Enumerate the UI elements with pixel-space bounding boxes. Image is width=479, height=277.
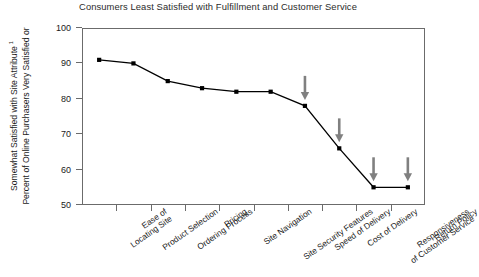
x-axis-tick-mark bbox=[116, 205, 117, 211]
y-axis-tick: 70 bbox=[0, 129, 82, 139]
x-axis-tick-mark bbox=[391, 205, 392, 211]
y-axis-tick-label: 70 bbox=[61, 129, 71, 139]
x-axis-category-label: Site Navigation bbox=[263, 207, 314, 247]
x-axis-tick-mark bbox=[219, 205, 220, 211]
y-axis-label-secondary: Somewhat Satisfied with Site Attribute1 bbox=[0, 16, 28, 216]
y-axis-tick: 50 bbox=[0, 200, 82, 210]
y-axis-tick: 90 bbox=[0, 58, 82, 68]
y-axis-tick-mark bbox=[76, 204, 82, 205]
y-axis-tick-label: 50 bbox=[61, 200, 71, 210]
x-axis-tick-mark bbox=[356, 205, 357, 211]
y-axis-tick-label: 100 bbox=[56, 23, 71, 33]
y-axis-tick-mark bbox=[76, 98, 82, 99]
chart-title: Consumers Least Satisfied with Fulfillme… bbox=[0, 1, 436, 12]
y-axis-label-footnote-marker: 1 bbox=[8, 41, 14, 44]
y-axis-tick-mark bbox=[76, 133, 82, 134]
y-axis-tick: 80 bbox=[0, 94, 82, 104]
x-axis-tick-mark bbox=[322, 205, 323, 211]
y-axis-tick-mark bbox=[76, 169, 82, 170]
x-axis-tick-mark bbox=[151, 205, 152, 211]
y-axis-tick-label: 90 bbox=[61, 58, 71, 68]
x-axis-tick-mark bbox=[254, 205, 255, 211]
plot-area bbox=[82, 28, 425, 205]
y-axis-tick: 60 bbox=[0, 165, 82, 175]
y-axis-tick: 100 bbox=[0, 23, 82, 33]
x-axis-tick-mark bbox=[288, 205, 289, 211]
x-axis-tick-mark bbox=[185, 205, 186, 211]
y-axis-tick-label: 60 bbox=[61, 165, 71, 175]
y-axis-tick-mark bbox=[76, 27, 82, 28]
x-axis-category-label: Product Selection bbox=[161, 207, 220, 252]
y-axis-tick-label: 80 bbox=[61, 94, 71, 104]
y-axis-tick-mark bbox=[76, 62, 82, 63]
